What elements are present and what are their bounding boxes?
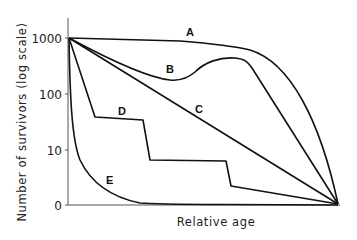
curve-label-d: D	[118, 105, 126, 117]
curve-label-a: A	[186, 26, 194, 38]
curve-label-c: C	[195, 103, 203, 115]
x-axis-label: Relative age	[177, 215, 256, 229]
curve-label-e: E	[106, 174, 113, 186]
curve-label-b: B	[166, 63, 174, 75]
survivorship-chart: 1000 100 10 0 Number of survivors (log s…	[0, 0, 357, 240]
y-tick-label: 0	[54, 199, 62, 213]
y-tick-label: 1000	[31, 32, 62, 46]
y-axis-label: Number of survivors (log scale)	[15, 22, 29, 221]
y-tick-label: 10	[47, 144, 62, 158]
y-tick-label: 100	[39, 88, 62, 102]
